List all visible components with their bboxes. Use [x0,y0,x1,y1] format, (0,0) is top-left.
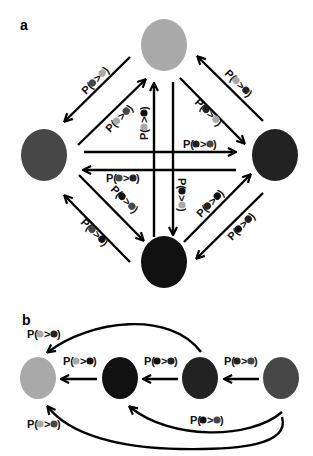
node-left [21,129,67,181]
node-b1 [20,357,56,399]
svg-text:>: > [241,355,247,367]
edge-label-b4-to-b3: P( > ) [224,355,258,367]
svg-text:>: > [176,195,188,201]
svg-text:>: > [44,328,50,340]
node-bottom [141,236,187,288]
figure: a P( > ) P( > ) P( > [0,0,313,456]
edge-label-right-to-left: P( > ) [106,172,140,184]
edge-label-b4-to-b1: P( > ) [27,418,61,430]
edge-label-top-to-right: P( > ) [193,96,226,129]
svg-text:>: > [44,418,50,430]
edge-label-right-to-top: P( > ) [223,67,256,100]
svg-text:): ) [213,138,217,150]
node-b2 [102,357,138,399]
node-b3 [182,357,218,399]
panel-b-label: b [22,312,31,328]
edge-label-b2-to-b1: P( > ) [63,355,97,367]
svg-text:>: > [123,172,129,184]
edge-label-bottom-to-top: P( > ) [138,106,150,140]
svg-text:>: > [80,355,86,367]
edge-label-b3-to-b2: P( > ) [144,355,178,367]
svg-text:): ) [220,414,224,426]
edge-label-left-to-top: P( > ) [103,102,136,135]
svg-text:>: > [200,138,206,150]
svg-text:): ) [254,355,258,367]
node-b4 [263,357,299,399]
edge-label-left-to-right: P( > ) [183,138,217,150]
svg-text:): ) [93,355,97,367]
edge-label-b3-to-b1: P( > ) [27,328,61,340]
panel-a-label: a [20,17,28,33]
svg-text:): ) [57,328,61,340]
panel-b-arrows [48,324,283,449]
svg-text:): ) [57,418,61,430]
svg-text:>: > [161,355,167,367]
svg-text:): ) [174,355,178,367]
edge-label-bottom-to-left: P( > ) [79,216,112,249]
arrow-b3-to-b1 [48,324,201,352]
svg-text:>: > [138,117,150,123]
node-top [141,19,187,71]
node-right [252,129,298,181]
svg-text:): ) [136,172,140,184]
edge-label-top-to-bottom: P( > ) [176,178,188,212]
svg-text:): ) [176,208,188,212]
svg-text:>: > [207,414,213,426]
edge-label-b4-to-b2: P( > ) [190,414,224,426]
svg-text:): ) [138,106,150,110]
